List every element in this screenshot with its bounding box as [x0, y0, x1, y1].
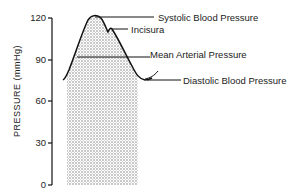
tick-label-90: 90 — [22, 55, 46, 65]
systolic-label: Systolic Blood Pressure — [158, 13, 258, 23]
diastolic-label: Diastolic Blood Pressure — [183, 76, 287, 86]
tick-label-60: 60 — [22, 96, 46, 106]
stippled-area — [67, 16, 138, 185]
y-axis-label: PRESSURE (mmHg) — [12, 45, 22, 137]
mean-arterial-label: Mean Arterial Pressure — [150, 50, 247, 60]
tick-label-0: 0 — [22, 180, 46, 190]
tick-label-120: 120 — [22, 13, 46, 23]
incisura-label: Incisura — [131, 25, 164, 35]
tick-label-30: 30 — [22, 138, 46, 148]
